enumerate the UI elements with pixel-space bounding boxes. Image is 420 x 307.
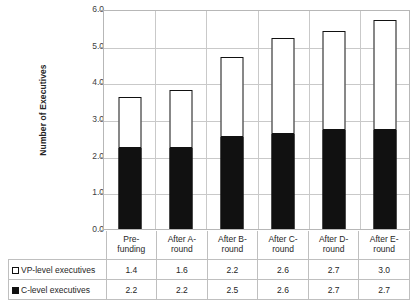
legend-entry: C-level executives <box>9 280 107 300</box>
legend-entry: VP-level executives <box>9 260 107 280</box>
legend-swatch-icon <box>12 267 19 274</box>
bar-segment-vp-level <box>220 57 243 138</box>
stacked-bar <box>272 11 295 229</box>
bar-segment-c-level <box>374 130 397 229</box>
bar-segment-c-level <box>323 130 346 229</box>
table-value-cell: 2.6 <box>258 260 309 280</box>
bar-segment-c-level <box>220 137 243 229</box>
table-category-header: After D-round <box>308 231 359 260</box>
y-axis-tick-label: 6.0 <box>64 5 104 14</box>
stacked-bar <box>323 11 346 229</box>
stacked-bar <box>118 11 141 229</box>
table-row: C-level executives2.22.22.52.62.72.7 <box>9 280 410 300</box>
table-value-cell: 3.0 <box>359 260 410 280</box>
y-axis-tick-label: 5.0 <box>64 42 104 51</box>
table-category-header: After E-round <box>359 231 410 260</box>
table-category-header-line: round <box>209 245 257 255</box>
y-axis-tick-label: 4.0 <box>64 78 104 87</box>
bar-segment-vp-level <box>169 90 192 149</box>
table-category-header-line: round <box>360 245 408 255</box>
bar-segment-vp-level <box>323 31 346 130</box>
bar-group <box>360 11 411 229</box>
table-category-header: After B-round <box>207 231 258 260</box>
table-value-cell: 2.7 <box>308 260 359 280</box>
stacked-bar <box>169 11 192 229</box>
bar-group <box>258 11 309 229</box>
bar-segment-vp-level <box>374 20 397 130</box>
plot-area <box>103 10 410 230</box>
table-category-header-line: round <box>259 245 307 255</box>
stacked-bar-chart: Number of Executives 6.05.04.03.02.01.00… <box>0 0 420 307</box>
table-value-cell: 1.4 <box>106 260 157 280</box>
stacked-bar <box>374 11 397 229</box>
table-header-row: Pre-fundingAfter A-roundAfter B-roundAft… <box>9 231 410 260</box>
stacked-bar <box>220 11 243 229</box>
table-category-header: Pre-funding <box>106 231 157 260</box>
bar-group <box>309 11 360 229</box>
bar-group <box>155 11 206 229</box>
y-axis-tick-label: 3.0 <box>64 115 104 124</box>
legend-swatch-icon <box>12 287 19 294</box>
y-axis-tick-label: 2.0 <box>64 152 104 161</box>
table-value-cell: 2.2 <box>157 280 208 300</box>
bar-segment-vp-level <box>118 97 141 148</box>
bar-group <box>206 11 257 229</box>
table-category-header-line: funding <box>108 245 156 255</box>
bar-segment-c-level <box>118 148 141 229</box>
table-value-cell: 2.2 <box>106 280 157 300</box>
table-category-header-line: round <box>158 245 206 255</box>
table-value-cell: 2.7 <box>359 280 410 300</box>
table-value-cell: 2.5 <box>207 280 258 300</box>
table-value-cell: 2.2 <box>207 260 258 280</box>
table-row: VP-level executives1.41.62.22.62.73.0 <box>9 260 410 280</box>
data-table: Pre-fundingAfter A-roundAfter B-roundAft… <box>8 231 410 300</box>
table-corner-cell <box>9 231 107 260</box>
table-category-header: After C-round <box>258 231 309 260</box>
table-value-cell: 1.6 <box>157 260 208 280</box>
table-value-cell: 2.6 <box>258 280 309 300</box>
y-axis-tick-label: 1.0 <box>64 188 104 197</box>
legend-label: VP-level executives <box>21 265 95 275</box>
table-category-header: After A-round <box>157 231 208 260</box>
bar-group <box>104 11 155 229</box>
bar-segment-c-level <box>272 134 295 229</box>
bar-segment-vp-level <box>272 38 295 133</box>
legend-label: C-level executives <box>21 285 90 295</box>
y-axis-title: Number of Executives <box>38 30 48 190</box>
table-category-header-line: round <box>310 245 358 255</box>
bar-segment-c-level <box>169 148 192 229</box>
table-value-cell: 2.7 <box>308 280 359 300</box>
table-body: VP-level executives1.41.62.22.62.73.0C-l… <box>9 260 410 300</box>
